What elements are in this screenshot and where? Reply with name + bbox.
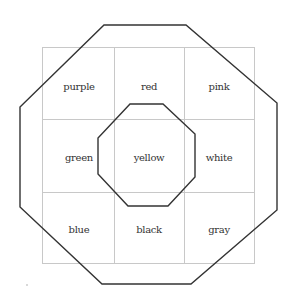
cell-label-gray: gray [208,224,230,235]
cell-label-green: green [65,152,93,163]
cell-label-yellow: yellow [134,152,165,163]
stray-mark [26,284,28,286]
cell-label-black: black [136,224,162,235]
cell-label-red: red [141,81,157,92]
cell-label-pink: pink [209,81,230,92]
cell-label-blue: blue [69,224,90,235]
cell-label-purple: purple [63,81,94,92]
cell-label-white: white [206,152,233,163]
